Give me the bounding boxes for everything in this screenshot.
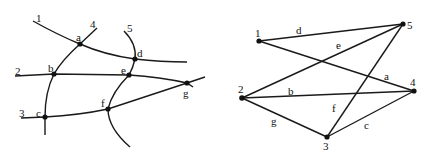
vertex-4 xyxy=(411,88,416,93)
edge-label-f: f xyxy=(332,102,336,114)
curve-5 xyxy=(108,31,135,147)
curve-2 xyxy=(15,74,193,87)
vertex-label-5: 5 xyxy=(407,19,413,31)
edge-label-c: c xyxy=(364,119,369,131)
vertex-3 xyxy=(324,134,329,139)
edge-b xyxy=(242,91,414,98)
curve-label-3: 3 xyxy=(19,107,25,119)
edge-label-d: d xyxy=(296,24,302,36)
vertex-label-3: 3 xyxy=(323,140,329,152)
point-f xyxy=(105,106,110,111)
figure: 1 2 3 4 5 a b c d e f g 1 2 3 4 5 a b c … xyxy=(0,0,431,159)
point-label-d: d xyxy=(137,47,143,59)
point-e xyxy=(126,72,131,77)
edge-c xyxy=(327,91,414,137)
vertex-5 xyxy=(400,21,405,26)
point-label-f: f xyxy=(101,97,105,109)
edge-label-b: b xyxy=(288,85,294,97)
curve-label-5: 5 xyxy=(127,22,133,34)
point-label-a: a xyxy=(76,31,81,43)
point-c xyxy=(42,114,47,119)
edge-g xyxy=(242,98,327,137)
point-label-c: c xyxy=(36,107,41,119)
point-label-e: e xyxy=(121,64,126,76)
curve-1 xyxy=(33,21,187,62)
edge-label-g: g xyxy=(271,115,277,127)
curve-label-2: 2 xyxy=(15,65,21,77)
vertex-2 xyxy=(239,95,245,101)
vertex-label-1: 1 xyxy=(255,27,261,39)
edge-d xyxy=(259,24,403,41)
right-diagram: 1 2 3 4 5 a b c d e f g xyxy=(238,19,417,152)
left-diagram: 1 2 3 4 5 a b c d e f g xyxy=(15,12,205,147)
vertex-label-4: 4 xyxy=(410,76,416,88)
vertex-1 xyxy=(256,38,261,43)
curve-label-4: 4 xyxy=(90,18,96,30)
curve-3 xyxy=(21,77,205,118)
edge-label-e: e xyxy=(336,39,341,51)
point-label-g: g xyxy=(183,87,189,99)
edge-label-a: a xyxy=(384,70,389,82)
point-g xyxy=(184,80,189,85)
curve-label-1: 1 xyxy=(36,12,42,24)
vertex-label-2: 2 xyxy=(238,83,244,95)
curve-4 xyxy=(45,28,97,135)
point-label-b: b xyxy=(48,62,54,74)
